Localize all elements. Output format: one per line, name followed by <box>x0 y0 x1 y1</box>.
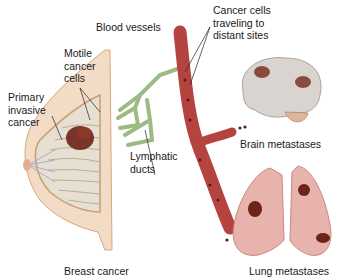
metastasis-diagram: Blood vessels Cancer cells traveling to … <box>0 0 341 280</box>
label-line: cancer <box>8 116 46 129</box>
label-lymphatic-ducts: Lymphatic ducts <box>130 150 177 175</box>
label-brain-metastases: Brain metastases <box>240 138 321 151</box>
label-cancer-cells-traveling: Cancer cells traveling to distant sites <box>213 4 271 42</box>
label-line: traveling to <box>213 17 271 30</box>
label-blood-vessels: Blood vessels <box>96 21 161 34</box>
label-line: invasive <box>8 104 46 117</box>
lymphatic-ducts <box>118 68 180 145</box>
label-line: cancer <box>64 60 96 73</box>
label-line: cells <box>64 72 96 85</box>
label-line: ducts <box>130 163 177 176</box>
label-line: Motile <box>64 47 96 60</box>
label-motile-cancer-cells: Motile cancer cells <box>64 47 96 85</box>
label-lung-metastases: Lung metastases <box>249 265 329 278</box>
label-line: Lymphatic <box>130 150 177 163</box>
label-line: Cancer cells <box>213 4 271 17</box>
lung-illustration <box>233 166 331 255</box>
label-breast-cancer: Breast cancer <box>64 265 129 278</box>
brain-illustration <box>242 58 321 122</box>
label-primary-invasive-cancer: Primary invasive cancer <box>8 91 46 129</box>
label-line: Primary <box>8 91 46 104</box>
label-line: distant sites <box>213 29 271 42</box>
